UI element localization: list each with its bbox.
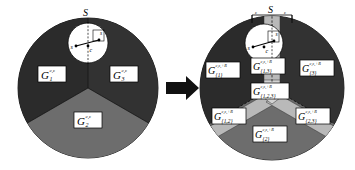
left-label-g1: G c,ε 1	[38, 66, 66, 82]
right-arrow-icon	[166, 76, 199, 100]
diagram-svg: s c s S G c,ε 1 G c,ε 3 G c,ε 2	[0, 0, 355, 170]
left-top-label-s: S	[83, 7, 88, 18]
right-label-r1: G c,ε,+R {1}	[206, 62, 240, 79]
right-label-r123-base: G	[253, 86, 260, 97]
right-label-r3-base: G	[302, 63, 309, 74]
left-label-g3-sub: 3	[121, 76, 125, 82]
right-bracket-label-right: ε	[284, 10, 286, 15]
left-label-g2-base: G	[77, 115, 85, 127]
right-label-r1-sub: {1}	[216, 72, 224, 79]
right-label-r12-sub: {1,2}	[222, 118, 234, 125]
left-circle-group: s c s S G c,ε 1 G c,ε 3 G c,ε 2	[16, 7, 160, 160]
right-label-r123: G c,ε,+R {1,2,3}	[251, 83, 289, 100]
right-label-c: c	[266, 48, 269, 54]
right-bracket-label-left: ε	[255, 10, 257, 15]
right-label-r2: G c,ε,+R {2}	[253, 126, 287, 143]
left-label-g3-base: G	[113, 69, 121, 81]
right-label-r13: G c,ε,+R {1,3}	[251, 58, 285, 75]
left-point-s	[75, 45, 78, 48]
right-label-s-right: s	[276, 31, 278, 37]
right-label-r12: G c,ε,+R {1,2}	[212, 108, 246, 125]
right-label-r23: G c,ε,+R {2,3}	[296, 108, 330, 125]
right-label-r3: G c,ε,+R {3}	[300, 60, 334, 77]
transformation-arrow	[166, 76, 199, 100]
right-label-r2-base: G	[255, 129, 262, 140]
right-label-r3-sub: {3}	[310, 70, 318, 77]
right-top-label-s: S	[268, 4, 273, 15]
right-point-s	[252, 46, 255, 49]
right-circle-group: s c s ε ε S G c,ε,+R {1} G c,ε,+R {1,3} …	[196, 4, 348, 164]
right-label-r123-sub: {1,2,3}	[261, 93, 277, 100]
right-label-r13-base: G	[253, 61, 260, 72]
left-label-s-right: s	[100, 30, 102, 36]
right-label-r12-base: G	[214, 111, 221, 122]
figure-canvas: s c s S G c,ε 1 G c,ε 3 G c,ε 2	[0, 0, 355, 170]
right-label-r23-base: G	[298, 111, 305, 122]
right-label-r23-sub: {2,3}	[306, 118, 318, 125]
left-label-g3: G c,ε 3	[110, 66, 138, 82]
left-label-c: c	[90, 47, 93, 53]
right-inner-disk	[245, 24, 283, 62]
left-label-g2: G c,ε 2	[74, 112, 102, 128]
right-label-r13-sub: {1,3}	[261, 68, 273, 75]
left-label-g2-sub: 2	[86, 122, 89, 128]
right-label-r2-sub: {2}	[263, 136, 271, 143]
left-label-g1-base: G	[41, 69, 49, 81]
right-label-r1-base: G	[208, 65, 215, 76]
left-label-g1-sub: 1	[50, 76, 53, 82]
